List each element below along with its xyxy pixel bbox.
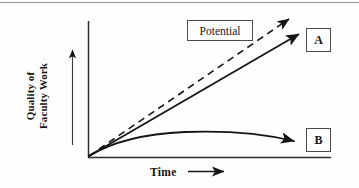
figure-container: Quality of Faculty Work Time Potential A… <box>0 0 359 188</box>
curve-a-line <box>89 34 299 156</box>
potential-label-box: Potential <box>187 20 253 41</box>
y-axis-label-line-1: Quality of <box>24 36 37 156</box>
x-axis-label: Time <box>150 166 177 178</box>
y-axis-label-line-2: Faculty Work <box>37 36 50 156</box>
curve-a-label-box: A <box>306 28 331 52</box>
y-axis-label: Quality of Faculty Work <box>24 36 50 156</box>
curve-b-label-box: B <box>306 128 331 152</box>
